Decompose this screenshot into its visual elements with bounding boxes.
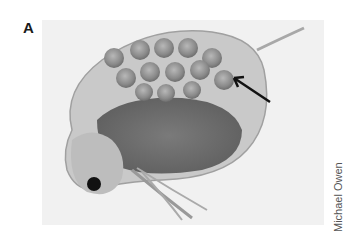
daphnia-illustration — [42, 20, 324, 225]
panel-label: A — [23, 19, 34, 36]
photo-credit: Michael Owen — [332, 162, 344, 232]
daphnia-photo — [42, 20, 324, 225]
eye — [87, 177, 101, 191]
